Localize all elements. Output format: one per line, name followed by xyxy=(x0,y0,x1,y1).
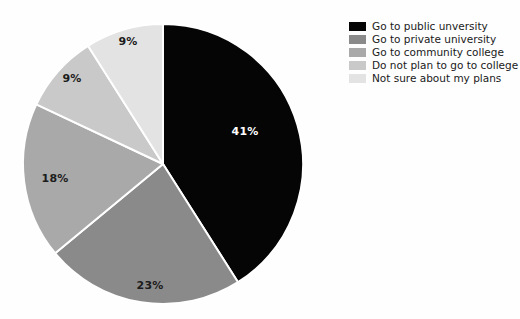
legend-item[interactable]: Go to public unversity xyxy=(349,20,517,33)
pie-slice-data-label: 41% xyxy=(232,125,259,138)
legend-item-label: Go to community college xyxy=(372,46,504,59)
pie-slice-data-label: 23% xyxy=(137,279,164,292)
pie-slice-data-label: 18% xyxy=(42,172,69,185)
pie-slice-data-label: 9% xyxy=(118,35,137,48)
pie-slice-data-label: 9% xyxy=(62,72,81,85)
chart-legend: Go to public unversityGo to private univ… xyxy=(349,20,517,85)
pie-chart-figure: 41%23%18%9%9% Go to public unversityGo t… xyxy=(0,0,520,319)
pie-slice-group xyxy=(23,24,303,304)
legend-item-label: Go to private university xyxy=(372,33,496,46)
legend-item[interactable]: Go to private university xyxy=(349,33,517,46)
legend-swatch-no-college xyxy=(349,61,366,70)
legend-item-label: Not sure about my plans xyxy=(372,72,501,85)
legend-swatch-public-university xyxy=(349,22,366,31)
pie-chart-plot-area: 41%23%18%9%9% xyxy=(0,0,330,319)
legend-item-label: Go to public unversity xyxy=(372,20,488,33)
pie-chart-svg: 41%23%18%9%9% xyxy=(0,0,330,319)
legend-swatch-not-sure xyxy=(349,74,366,83)
legend-swatch-private-university xyxy=(349,35,366,44)
legend-item[interactable]: Go to community college xyxy=(349,46,517,59)
legend-item[interactable]: Do not plan to go to college xyxy=(349,59,517,72)
legend-swatch-community-college xyxy=(349,48,366,57)
legend-item[interactable]: Not sure about my plans xyxy=(349,72,517,85)
legend-item-label: Do not plan to go to college xyxy=(372,59,518,72)
